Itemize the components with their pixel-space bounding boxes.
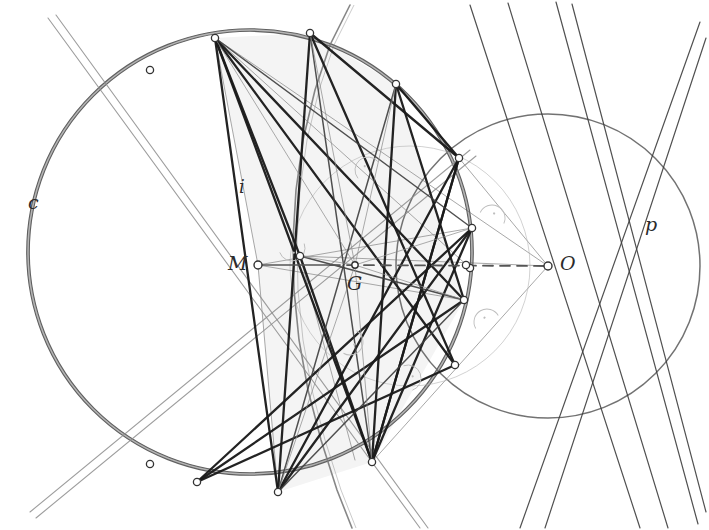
tangent-1 bbox=[470, 5, 640, 528]
label-p: p bbox=[645, 215, 657, 234]
right-angle-mark-4-dot bbox=[483, 316, 486, 319]
right-angle-mark-3-arc bbox=[480, 201, 509, 224]
vertex-L bbox=[193, 478, 200, 485]
vertex-K bbox=[274, 488, 281, 495]
tangent-4 bbox=[572, 4, 706, 512]
figure-canvas: ciMGOp bbox=[0, 0, 709, 530]
vertex-C bbox=[392, 80, 399, 87]
right-angle-mark-3 bbox=[480, 201, 509, 224]
label-c: c bbox=[28, 193, 39, 212]
label-G: G bbox=[347, 274, 362, 293]
vertex-N bbox=[146, 66, 153, 73]
vertex-H bbox=[460, 296, 467, 303]
vertex-D bbox=[455, 154, 462, 161]
label-O: O bbox=[560, 254, 576, 273]
right-angle-mark-4-arc bbox=[469, 304, 498, 328]
vertex-R bbox=[462, 261, 469, 268]
right-angle-mark-4 bbox=[469, 304, 498, 328]
label-i: i bbox=[239, 178, 245, 196]
point-M bbox=[254, 261, 262, 269]
tangent-6 bbox=[545, 38, 706, 528]
vertex-J bbox=[368, 458, 375, 465]
point-O bbox=[544, 262, 552, 270]
vertex-Q bbox=[296, 252, 303, 259]
tangent-3 bbox=[556, 2, 698, 524]
geometry-svg bbox=[0, 0, 709, 530]
vertex-A bbox=[211, 34, 218, 41]
tangent-5 bbox=[520, 22, 700, 528]
label-M: M bbox=[228, 254, 247, 273]
vertex-B bbox=[306, 29, 313, 36]
right-angle-mark-3-dot bbox=[493, 212, 496, 215]
point-G bbox=[352, 262, 358, 268]
vertex-E bbox=[468, 224, 475, 231]
vertex-I bbox=[451, 361, 458, 368]
vertex-P bbox=[146, 460, 153, 467]
